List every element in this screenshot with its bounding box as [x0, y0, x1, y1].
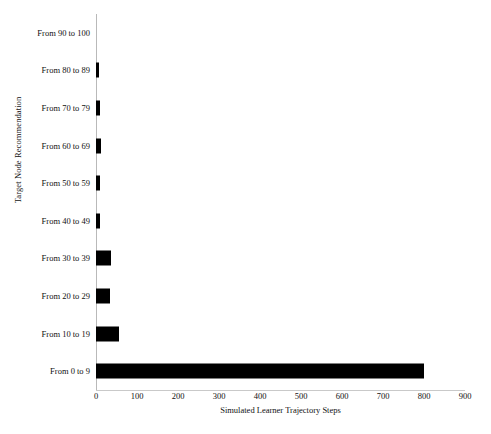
- bar-track: [96, 176, 100, 191]
- bar[interactable]: [96, 288, 110, 303]
- plot-area: From 90 to 100 From 80 to 89 From 70 to …: [96, 14, 465, 390]
- category-label: From 0 to 9: [50, 366, 90, 376]
- category-label: From 20 to 29: [42, 291, 90, 301]
- category-label: From 50 to 59: [42, 178, 90, 188]
- bar-track: [96, 138, 101, 153]
- bar[interactable]: [96, 213, 100, 228]
- x-tick-label: 600: [336, 391, 349, 401]
- bar-row: From 40 to 49: [96, 202, 465, 240]
- x-tick-label: 100: [131, 391, 144, 401]
- x-tick-label: 200: [172, 391, 185, 401]
- bar[interactable]: [96, 63, 99, 78]
- category-label: From 90 to 100: [37, 28, 90, 38]
- x-tick-label: 700: [377, 391, 390, 401]
- category-label: From 60 to 69: [42, 141, 90, 151]
- bar[interactable]: [96, 251, 111, 266]
- bar-track: [96, 326, 119, 341]
- category-label: From 30 to 39: [42, 253, 90, 263]
- bar[interactable]: [96, 364, 424, 379]
- bar-track: [96, 288, 110, 303]
- bar-row: From 90 to 100: [96, 14, 465, 52]
- bar-row: From 30 to 39: [96, 240, 465, 278]
- bar-row: From 60 to 69: [96, 127, 465, 165]
- x-tick-label: 800: [418, 391, 431, 401]
- x-tick-label: 900: [459, 391, 472, 401]
- x-axis-title: Simulated Learner Trajectory Steps: [96, 405, 465, 415]
- bar-row: From 70 to 79: [96, 89, 465, 127]
- category-label: From 10 to 19: [42, 329, 90, 339]
- bar-track: [96, 364, 424, 379]
- bar-row: From 0 to 9: [96, 352, 465, 390]
- bar-chart-figure: Target Node Recommendation From 90 to 10…: [0, 0, 491, 434]
- bar-row: From 50 to 59: [96, 164, 465, 202]
- category-label: From 70 to 79: [42, 103, 90, 113]
- bar-track: [96, 100, 100, 115]
- y-axis-title: Target Node Recommendation: [13, 70, 23, 230]
- x-tick-label: 300: [213, 391, 226, 401]
- x-tick-label: 400: [254, 391, 267, 401]
- category-label: From 40 to 49: [42, 216, 90, 226]
- bar-row: From 10 to 19: [96, 315, 465, 353]
- bar-row: From 20 to 29: [96, 277, 465, 315]
- x-tick-label: 500: [295, 391, 308, 401]
- bar-row: From 80 to 89: [96, 52, 465, 90]
- bar-track: [96, 63, 99, 78]
- bar-track: [96, 251, 111, 266]
- bar[interactable]: [96, 326, 119, 341]
- bar[interactable]: [96, 176, 100, 191]
- bar[interactable]: [96, 100, 100, 115]
- bar[interactable]: [96, 138, 101, 153]
- x-tick-label: 0: [94, 391, 98, 401]
- bar-track: [96, 213, 100, 228]
- category-label: From 80 to 89: [42, 65, 90, 75]
